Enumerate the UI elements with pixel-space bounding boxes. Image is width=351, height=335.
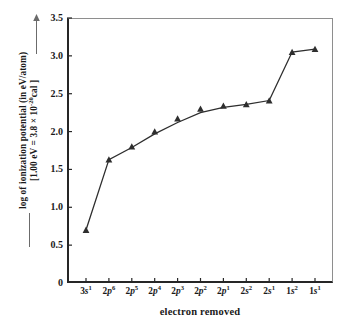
data-point-markers	[83, 46, 319, 233]
y-axis-tick-label: 0	[37, 277, 63, 288]
x-axis-tick-labels: 3s12p62p52p42p32p22p12s22s11s21s1	[67, 286, 333, 302]
y-axis-tick-label: 3.0	[37, 50, 63, 61]
y-axis-tick-label: 2.5	[37, 88, 63, 99]
y-axis-tick-labels: 00.51.01.52.02.53.03.5	[34, 0, 63, 335]
data-point-marker	[174, 115, 181, 121]
ionization-potential-chart: log of ionization potential (in eV/atom)…	[0, 0, 351, 335]
x-axis-title: electron removed	[67, 306, 333, 317]
data-point-marker	[151, 128, 158, 134]
y-axis-title-line1: log of ionization potential (in eV/atom)	[18, 52, 28, 209]
data-point-marker	[220, 102, 227, 108]
x-axis-tick-marks	[86, 278, 315, 283]
data-point-marker	[197, 105, 204, 111]
y-axis-rule	[29, 213, 30, 247]
chart-plot-svg	[67, 18, 333, 283]
y-axis-tick-label: 1.5	[37, 163, 63, 174]
y-axis-tick-label: 1.0	[37, 201, 63, 212]
ionization-line-series	[86, 49, 315, 230]
data-point-marker	[83, 227, 90, 233]
y-axis-tick-label: 0.5	[37, 239, 63, 250]
y-axis-tick-label: 3.5	[37, 12, 63, 23]
x-axis-tick-label: 1s1	[295, 286, 335, 296]
y-axis-tick-marks	[67, 18, 72, 245]
y-axis-tick-label: 2.0	[37, 126, 63, 137]
data-point-marker	[106, 156, 113, 162]
